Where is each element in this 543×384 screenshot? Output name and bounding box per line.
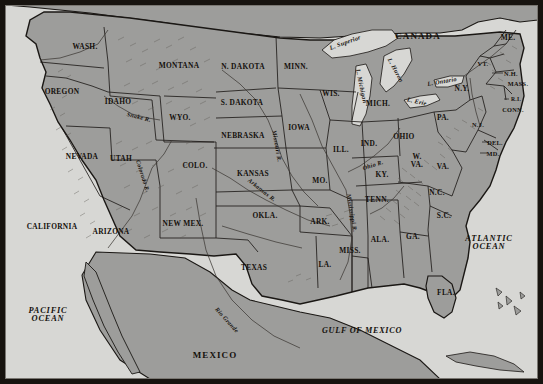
map-graphic bbox=[0, 0, 543, 384]
map-figure: WASH.OREGONIDAHOMONTANAWYO.NEVADAUTAHCAL… bbox=[0, 0, 543, 384]
